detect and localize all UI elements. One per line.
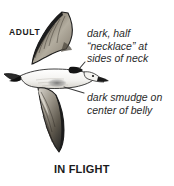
callout-necklace-line-1: dark, half [87,27,148,40]
pose-label-in-flight: IN FLIGHT [54,163,110,175]
tail [4,74,21,82]
leader-line-necklace [79,62,85,69]
callout-necklace-line-3: sides of neck [87,52,148,65]
callout-belly-smudge: dark smudge on center of belly [87,91,162,116]
callout-belly-smudge-line-1: dark smudge on [87,91,162,104]
callout-necklace-line-2: “necklace” at [87,40,148,53]
callout-necklace: dark, half “necklace” at sides of neck [87,27,148,65]
leader-line-belly-smudge [64,87,84,93]
upper-wing [32,12,72,64]
bird-identification-plate: ADULT dark, half “necklace” at sides of … [0,0,174,186]
belly-smudge [47,79,67,88]
lower-wing [38,88,64,152]
callout-belly-smudge-line-2: center of belly [87,104,162,117]
age-label-adult: ADULT [9,27,40,37]
